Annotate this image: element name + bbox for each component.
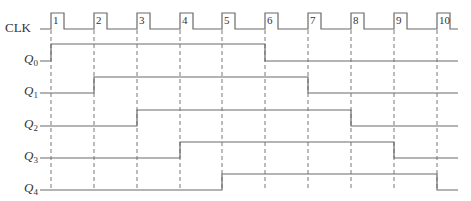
pulse-number-3: 3	[139, 14, 145, 26]
q0-label: Q0	[24, 51, 38, 68]
q-waveforms	[40, 44, 458, 190]
pulse-number-4: 4	[182, 14, 188, 26]
pulse-number-8: 8	[353, 14, 359, 26]
timing-diagram: 12345678910 CLKQ0Q1Q2Q3Q4	[0, 0, 471, 201]
pulse-number-5: 5	[224, 14, 230, 26]
pulse-number-1: 1	[53, 14, 59, 26]
q1-waveform	[40, 77, 458, 93]
signal-labels: CLKQ0Q1Q2Q3Q4	[5, 20, 38, 197]
pulse-number-2: 2	[96, 14, 102, 26]
q3-waveform	[40, 142, 458, 158]
q2-waveform	[40, 110, 458, 126]
pulse-number-7: 7	[310, 14, 316, 26]
q4-waveform	[40, 174, 458, 190]
q3-label: Q3	[24, 148, 38, 165]
q2-label: Q2	[24, 116, 38, 133]
q1-label: Q1	[24, 83, 38, 100]
clock-waveform: 12345678910	[40, 13, 458, 29]
timing-diagram-canvas: 12345678910 CLKQ0Q1Q2Q3Q4	[0, 0, 471, 201]
clk-label: CLK	[5, 20, 32, 35]
pulse-number-10: 10	[439, 14, 451, 26]
pulse-number-9: 9	[396, 14, 402, 26]
pulse-number-6: 6	[267, 14, 273, 26]
q4-label: Q4	[24, 180, 38, 197]
q0-waveform	[40, 44, 458, 61]
